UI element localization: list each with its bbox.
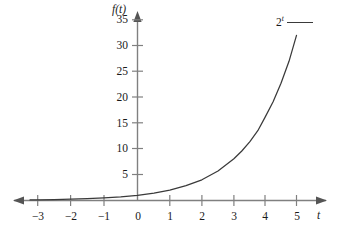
y-tick-label-15: 15 xyxy=(108,118,128,130)
y-tick-label-10: 10 xyxy=(108,143,128,155)
x-tick-label-1: 1 xyxy=(158,211,182,223)
x-tick-label--2: −2 xyxy=(59,211,83,223)
legend-label-exponent: t xyxy=(282,14,284,23)
x-tick-label-5: 5 xyxy=(285,211,309,223)
y-tick-label-35: 35 xyxy=(108,14,128,26)
x-tick-label-3: 3 xyxy=(222,211,246,223)
x-axis-label: t xyxy=(317,210,320,222)
y-tick-label-20: 20 xyxy=(108,92,128,104)
y-tick-label-5: 5 xyxy=(108,169,128,181)
plot-area xyxy=(0,0,339,239)
x-axis-left-arrowhead xyxy=(13,196,24,204)
exponential-function-chart: 5 10 15 20 25 30 35 −3 −2 −1 0 1 2 3 4 5… xyxy=(0,0,339,239)
exponential-curve xyxy=(30,35,297,200)
x-axis-right-arrowhead xyxy=(316,196,327,204)
legend: 2t xyxy=(276,17,313,29)
legend-label-2-to-the-t: 2t xyxy=(276,17,284,29)
x-tick-label--1: −1 xyxy=(92,211,116,223)
legend-line-swatch xyxy=(287,22,313,23)
x-tick-label-4: 4 xyxy=(253,211,277,223)
y-tick-label-30: 30 xyxy=(108,40,128,52)
y-axis-label: f(t) xyxy=(112,4,126,16)
y-tick-label-25: 25 xyxy=(108,66,128,78)
x-tick-label-2: 2 xyxy=(190,211,214,223)
x-tick-label-0: 0 xyxy=(126,211,150,223)
x-tick-label--3: −3 xyxy=(26,211,50,223)
